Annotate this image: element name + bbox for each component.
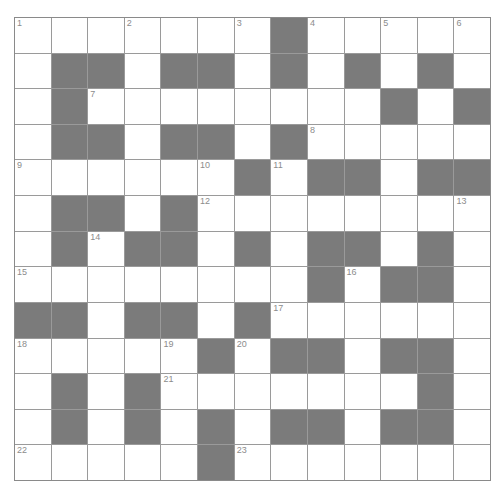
letter-cell[interactable]: [345, 125, 381, 160]
letter-cell[interactable]: [308, 374, 344, 409]
letter-cell[interactable]: [198, 267, 234, 302]
letter-cell[interactable]: 7: [88, 89, 124, 124]
letter-cell[interactable]: 9: [15, 160, 51, 195]
letter-cell[interactable]: 2: [125, 18, 161, 53]
letter-cell[interactable]: 20: [235, 339, 271, 374]
letter-cell[interactable]: [345, 89, 381, 124]
letter-cell[interactable]: [52, 160, 88, 195]
letter-cell[interactable]: [454, 125, 490, 160]
letter-cell[interactable]: [88, 339, 124, 374]
letter-cell[interactable]: [161, 160, 197, 195]
letter-cell[interactable]: [381, 232, 417, 267]
letter-cell[interactable]: 8: [308, 125, 344, 160]
letter-cell[interactable]: [308, 303, 344, 338]
letter-cell[interactable]: [454, 303, 490, 338]
letter-cell[interactable]: [271, 232, 307, 267]
letter-cell[interactable]: [345, 410, 381, 445]
letter-cell[interactable]: [381, 445, 417, 480]
letter-cell[interactable]: [235, 54, 271, 89]
letter-cell[interactable]: 6: [454, 18, 490, 53]
letter-cell[interactable]: [235, 89, 271, 124]
letter-cell[interactable]: [15, 232, 51, 267]
letter-cell[interactable]: [308, 196, 344, 231]
letter-cell[interactable]: [88, 303, 124, 338]
letter-cell[interactable]: [125, 339, 161, 374]
letter-cell[interactable]: 22: [15, 445, 51, 480]
letter-cell[interactable]: [125, 89, 161, 124]
letter-cell[interactable]: [15, 196, 51, 231]
letter-cell[interactable]: [198, 303, 234, 338]
letter-cell[interactable]: [454, 54, 490, 89]
letter-cell[interactable]: [271, 445, 307, 480]
letter-cell[interactable]: [308, 89, 344, 124]
letter-cell[interactable]: [198, 89, 234, 124]
letter-cell[interactable]: [88, 374, 124, 409]
letter-cell[interactable]: [161, 18, 197, 53]
letter-cell[interactable]: [235, 125, 271, 160]
letter-cell[interactable]: [52, 18, 88, 53]
letter-cell[interactable]: [88, 18, 124, 53]
letter-cell[interactable]: [271, 89, 307, 124]
letter-cell[interactable]: [381, 196, 417, 231]
letter-cell[interactable]: [125, 267, 161, 302]
letter-cell[interactable]: [235, 410, 271, 445]
letter-cell[interactable]: [125, 445, 161, 480]
letter-cell[interactable]: [161, 267, 197, 302]
letter-cell[interactable]: 10: [198, 160, 234, 195]
letter-cell[interactable]: [345, 339, 381, 374]
letter-cell[interactable]: 18: [15, 339, 51, 374]
letter-cell[interactable]: [454, 374, 490, 409]
letter-cell[interactable]: [418, 125, 454, 160]
letter-cell[interactable]: [454, 339, 490, 374]
letter-cell[interactable]: 5: [381, 18, 417, 53]
letter-cell[interactable]: [125, 160, 161, 195]
letter-cell[interactable]: [198, 18, 234, 53]
letter-cell[interactable]: [88, 445, 124, 480]
letter-cell[interactable]: [235, 267, 271, 302]
letter-cell[interactable]: [52, 339, 88, 374]
letter-cell[interactable]: [15, 374, 51, 409]
letter-cell[interactable]: [381, 125, 417, 160]
letter-cell[interactable]: 15: [15, 267, 51, 302]
letter-cell[interactable]: [235, 374, 271, 409]
letter-cell[interactable]: [271, 267, 307, 302]
letter-cell[interactable]: 13: [454, 196, 490, 231]
letter-cell[interactable]: [161, 445, 197, 480]
letter-cell[interactable]: [125, 125, 161, 160]
letter-cell[interactable]: [161, 410, 197, 445]
letter-cell[interactable]: [454, 267, 490, 302]
letter-cell[interactable]: [345, 18, 381, 53]
letter-cell[interactable]: 11: [271, 160, 307, 195]
letter-cell[interactable]: [271, 374, 307, 409]
letter-cell[interactable]: [418, 445, 454, 480]
letter-cell[interactable]: [345, 196, 381, 231]
letter-cell[interactable]: [381, 303, 417, 338]
letter-cell[interactable]: [454, 445, 490, 480]
letter-cell[interactable]: [418, 303, 454, 338]
letter-cell[interactable]: [52, 445, 88, 480]
letter-cell[interactable]: [15, 54, 51, 89]
letter-cell[interactable]: 3: [235, 18, 271, 53]
letter-cell[interactable]: 16: [345, 267, 381, 302]
letter-cell[interactable]: [454, 232, 490, 267]
letter-cell[interactable]: [308, 54, 344, 89]
letter-cell[interactable]: 23: [235, 445, 271, 480]
letter-cell[interactable]: 12: [198, 196, 234, 231]
letter-cell[interactable]: 4: [308, 18, 344, 53]
letter-cell[interactable]: [52, 267, 88, 302]
letter-cell[interactable]: [15, 89, 51, 124]
letter-cell[interactable]: [381, 160, 417, 195]
letter-cell[interactable]: [235, 196, 271, 231]
letter-cell[interactable]: [418, 89, 454, 124]
letter-cell[interactable]: [15, 125, 51, 160]
letter-cell[interactable]: [198, 374, 234, 409]
letter-cell[interactable]: [271, 196, 307, 231]
letter-cell[interactable]: [88, 410, 124, 445]
letter-cell[interactable]: [125, 54, 161, 89]
letter-cell[interactable]: [418, 18, 454, 53]
letter-cell[interactable]: [381, 374, 417, 409]
letter-cell[interactable]: [345, 303, 381, 338]
letter-cell[interactable]: [345, 374, 381, 409]
letter-cell[interactable]: [161, 89, 197, 124]
letter-cell[interactable]: [125, 196, 161, 231]
